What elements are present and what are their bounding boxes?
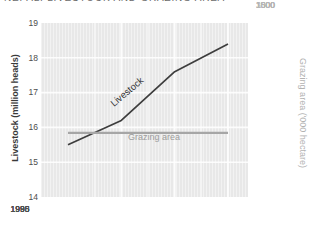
plot-svg: [41, 23, 248, 197]
x-axis-tick: 1998: [0, 204, 40, 214]
series-label-grazing: Grazing area: [128, 132, 180, 142]
chart-container: NEPAL: LIVESTOCK AND GRAZING AREA Livest…: [0, 0, 314, 230]
left-axis-tick: 18: [14, 53, 38, 63]
left-axis-tick: 17: [14, 87, 38, 97]
left-axis-tick: 14: [14, 192, 38, 202]
right-axis-title: Grazing area ('000 hectare): [298, 33, 308, 193]
right-axis-tick: 1000: [256, 0, 286, 10]
plot-area: [41, 23, 248, 197]
left-axis-tick: 15: [14, 157, 38, 167]
left-axis-tick: 19: [14, 18, 38, 28]
left-axis-tick: 16: [14, 122, 38, 132]
